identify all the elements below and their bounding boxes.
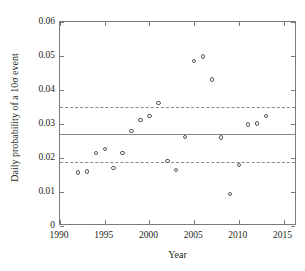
x-axis-tick-labels: 199019952000200520102015 (59, 229, 296, 243)
x-tick-label-2: 2000 (139, 229, 158, 241)
x-tick-label-4: 2010 (228, 229, 247, 241)
data-point (237, 163, 241, 167)
x-tick-1 (105, 220, 106, 224)
y-tick-4 (60, 90, 64, 91)
data-point (103, 147, 107, 151)
data-point (147, 114, 151, 118)
data-point (165, 159, 169, 163)
y-tick-label-5: 0.05 (38, 51, 55, 61)
x-tick-0 (60, 220, 61, 224)
data-point (201, 54, 205, 58)
x-tick-top-2 (149, 22, 150, 26)
data-point (174, 168, 178, 172)
data-point (138, 118, 142, 122)
plot-area (59, 21, 296, 225)
y-tick-label-6: 0.06 (38, 17, 55, 27)
data-point (85, 169, 89, 173)
x-tick-2 (149, 220, 150, 224)
x-axis-title: Year (59, 249, 296, 260)
x-tick-top-0 (60, 22, 61, 26)
data-point (210, 77, 214, 81)
data-point (156, 101, 160, 105)
data-point (264, 114, 268, 118)
x-tick-4 (239, 220, 240, 224)
y-tick-right-2 (291, 158, 295, 159)
x-tick-label-1: 1995 (94, 229, 113, 241)
data-point (228, 192, 232, 196)
data-point (246, 122, 250, 126)
y-tick-1 (60, 192, 64, 193)
y-tick-0 (60, 226, 64, 227)
x-tick-top-5 (284, 22, 285, 26)
chart-figure: 00.010.020.030.040.050.06 19901995200020… (0, 0, 305, 271)
x-tick-5 (284, 220, 285, 224)
reference-line-upper-bound (60, 107, 295, 108)
data-point (219, 135, 223, 139)
y-tick-2 (60, 158, 64, 159)
x-tick-top-3 (194, 22, 195, 26)
data-point (129, 129, 133, 133)
data-point (183, 135, 187, 139)
y-tick-right-0 (291, 226, 295, 227)
y-axis-title: Daily probability of a 10σ event (9, 16, 20, 220)
data-point (255, 121, 259, 125)
y-tick-right-3 (291, 124, 295, 125)
x-tick-label-5: 2015 (273, 229, 292, 241)
data-point (192, 59, 196, 63)
y-tick-right-1 (291, 192, 295, 193)
x-tick-top-1 (105, 22, 106, 26)
y-tick-label-1: 0.01 (38, 187, 55, 197)
data-point (94, 151, 98, 155)
y-tick-3 (60, 124, 64, 125)
x-tick-3 (194, 220, 195, 224)
data-point (76, 170, 80, 174)
x-tick-top-4 (239, 22, 240, 26)
y-tick-label-3: 0.03 (38, 119, 55, 129)
y-tick-label-2: 0.02 (38, 153, 55, 163)
y-tick-right-4 (291, 90, 295, 91)
y-tick-right-5 (291, 56, 295, 57)
x-tick-label-3: 2005 (184, 229, 203, 241)
data-point (111, 166, 115, 170)
y-tick-right-6 (291, 22, 295, 23)
reference-line-mean (60, 134, 295, 135)
y-tick-label-4: 0.04 (38, 85, 55, 95)
x-tick-label-0: 1990 (50, 229, 69, 241)
y-tick-5 (60, 56, 64, 57)
reference-line-lower-bound (60, 162, 295, 163)
data-point (120, 151, 124, 155)
